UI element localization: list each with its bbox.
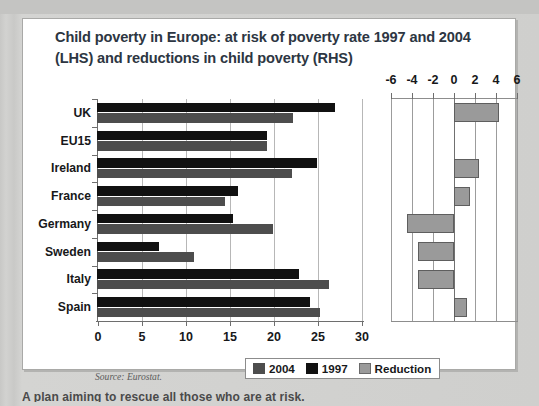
rhs-tick-mark — [517, 93, 518, 99]
rhs-zero-line — [454, 98, 455, 321]
legend-swatch-2004 — [253, 363, 265, 374]
category-tick-mark — [92, 293, 97, 294]
bar-1997-eu15 — [97, 131, 267, 140]
bar-1997-france — [97, 186, 238, 195]
page-top-strip — [0, 0, 539, 14]
lhs-tick-mark — [274, 321, 275, 326]
rhs-gridline — [496, 98, 497, 321]
rhs-tick-label: -4 — [406, 73, 417, 87]
page-footer-text: A plan aiming to rescue all those who ar… — [22, 390, 522, 402]
figure-page: Child poverty in Europe: at risk of pove… — [0, 0, 539, 406]
category-tick-mark — [92, 266, 97, 267]
rhs-tick-label: 4 — [493, 73, 500, 87]
chart-panel: Child poverty in Europe: at risk of pove… — [22, 18, 516, 370]
bar-1997-germany — [97, 214, 233, 223]
category-label-uk: UK — [73, 106, 91, 120]
bar-2004-uk — [97, 113, 293, 122]
rhs-tick-mark — [433, 93, 434, 99]
legend-item-2004: 2004 — [253, 362, 295, 375]
category-tick-mark — [92, 155, 97, 156]
source-note: Source: Eurostat. — [95, 371, 162, 382]
legend-item-1997: 1997 — [306, 362, 348, 375]
bar-1997-uk — [97, 103, 335, 112]
lhs-tick-mark — [98, 321, 99, 326]
bar-2004-italy — [97, 280, 329, 289]
bar-1997-sweden — [97, 242, 159, 251]
rhs-tick-label: -6 — [385, 73, 396, 87]
rhs-axis-panel: -6-4-20246 — [391, 99, 517, 321]
lhs-tick-label: 20 — [267, 330, 281, 344]
bar-2004-eu15 — [97, 141, 267, 150]
lhs-tick-mark — [362, 321, 363, 326]
rhs-tick-label: -2 — [427, 73, 438, 87]
rhs-tick-mark — [454, 93, 455, 99]
rhs-tick-label: 2 — [472, 73, 479, 87]
rhs-gridline — [391, 98, 392, 321]
category-tick-mark — [92, 99, 97, 100]
legend-swatch-reduction — [359, 363, 371, 374]
category-tick-mark — [92, 127, 97, 128]
category-label-italy: Italy — [67, 272, 91, 286]
rhs-tick-label: 0 — [451, 73, 458, 87]
rhs-gridline — [475, 98, 476, 321]
legend-swatch-1997 — [306, 363, 318, 374]
rhs-gridline — [517, 98, 518, 321]
category-label-spain: Spain — [58, 300, 91, 314]
bar-2004-france — [97, 197, 225, 206]
bar-reduction-france — [454, 187, 470, 206]
legend-item-reduction: Reduction — [359, 362, 432, 375]
lhs-tick-mark — [186, 321, 187, 326]
rhs-gridline — [412, 98, 413, 321]
bar-2004-germany — [97, 224, 273, 233]
bar-1997-spain — [97, 297, 310, 306]
lhs-tick-label: 0 — [95, 330, 102, 344]
bar-1997-italy — [97, 269, 299, 278]
bar-reduction-spain — [454, 298, 467, 317]
bar-reduction-germany — [407, 214, 454, 233]
lhs-tick-label: 5 — [139, 330, 146, 344]
rhs-bottom-border — [391, 321, 518, 322]
chart-title: Child poverty in Europe: at risk of pove… — [55, 27, 495, 69]
lhs-tick-label: 10 — [179, 330, 193, 344]
chart-title-line-1: Child poverty in Europe: at risk of pove… — [55, 29, 471, 45]
lhs-tick-label: 30 — [355, 330, 369, 344]
category-label-eu15: EU15 — [61, 134, 92, 148]
legend-label-1997: 1997 — [322, 362, 348, 375]
lhs-tick-mark — [142, 321, 143, 326]
category-tick-mark — [92, 210, 97, 211]
category-label-germany: Germany — [38, 217, 91, 231]
bar-1997-ireland — [97, 158, 317, 167]
bar-reduction-sweden — [418, 242, 454, 261]
bar-reduction-italy — [418, 270, 454, 289]
lhs-tick-mark — [318, 321, 319, 326]
legend-label-reduction: Reduction — [375, 362, 432, 375]
plot-area: 051015202530 -6-4-20246 UKEU15IrelandFra… — [75, 85, 501, 331]
category-label-ireland: Ireland — [51, 161, 91, 175]
rhs-tick-label: 6 — [514, 73, 521, 87]
rhs-tick-mark — [496, 93, 497, 99]
bar-2004-ireland — [97, 169, 292, 178]
category-label-sweden: Sweden — [45, 245, 91, 259]
chart-legend: 2004 1997 Reduction — [245, 358, 440, 379]
category-tick-mark — [92, 238, 97, 239]
category-tick-mark — [92, 182, 97, 183]
bar-reduction-uk — [454, 103, 499, 122]
rhs-tick-mark — [412, 93, 413, 99]
bar-2004-sweden — [97, 252, 194, 261]
rhs-tick-mark — [391, 93, 392, 99]
category-label-france: France — [51, 189, 91, 203]
lhs-gridline — [362, 99, 363, 321]
lhs-tick-label: 15 — [223, 330, 237, 344]
lhs-tick-label: 25 — [311, 330, 325, 344]
lhs-tick-mark — [230, 321, 231, 326]
chart-title-line-2: (LHS) and reductions in child poverty (R… — [55, 48, 495, 69]
legend-label-2004: 2004 — [269, 362, 295, 375]
bar-2004-spain — [97, 308, 320, 317]
bar-reduction-ireland — [454, 159, 479, 178]
rhs-tick-mark — [475, 93, 476, 99]
